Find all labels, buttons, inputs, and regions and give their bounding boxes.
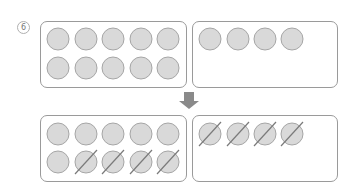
counters-layer [0, 0, 358, 190]
counter [47, 57, 69, 79]
counter [199, 28, 221, 50]
counter [102, 57, 124, 79]
after-right-counters [199, 123, 303, 145]
arrow-down-icon [179, 92, 199, 109]
counter [227, 28, 249, 50]
counter [130, 57, 152, 79]
after-left-counters [47, 123, 179, 173]
counter [281, 28, 303, 50]
before-right-counters [199, 28, 303, 50]
counter [75, 57, 97, 79]
counter [157, 123, 179, 145]
counter [102, 28, 124, 50]
counter [102, 123, 124, 145]
counter [157, 28, 179, 50]
counter [47, 123, 69, 145]
counter [130, 123, 152, 145]
counter [157, 57, 179, 79]
before-left-counters [47, 28, 179, 79]
counter [75, 123, 97, 145]
counter [254, 28, 276, 50]
counter [130, 28, 152, 50]
counter [47, 151, 69, 173]
counter [75, 28, 97, 50]
counter [47, 28, 69, 50]
